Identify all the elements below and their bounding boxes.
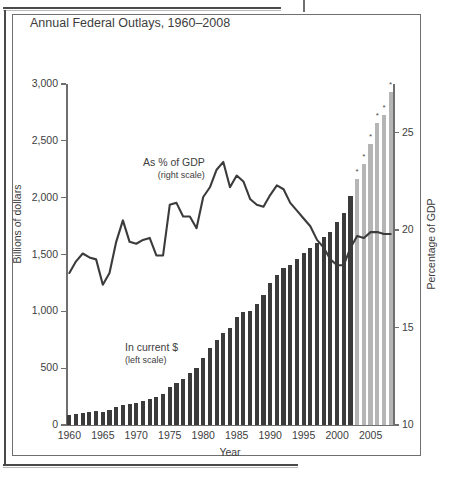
- left-axis-title: Billions of dollars: [11, 169, 23, 279]
- annotation-bars-sub: (left scale): [125, 354, 178, 367]
- figure-rule-bottom-hairline: [3, 467, 298, 468]
- x-axis-tick-label: 1960: [58, 429, 81, 441]
- right-axis-tick: [394, 327, 399, 328]
- annotation-bars-main: In current $: [125, 341, 178, 353]
- right-axis-title: Percentage of GDP: [425, 189, 437, 299]
- x-axis-tick-label: 1980: [192, 429, 215, 441]
- left-axis-tick-label: 0: [18, 418, 58, 430]
- right-axis-tick: [394, 229, 399, 230]
- page-left-rule: [4, 10, 6, 466]
- chart-title: Annual Federal Outlays, 1960–2008: [30, 16, 230, 30]
- figure-number-label: FIGURE 14.1: [120, 0, 270, 2]
- left-axis-tick-label: 3,000: [18, 77, 58, 89]
- left-axis-tick-label: 1,500: [18, 248, 58, 260]
- right-axis-tick-label: 10: [402, 418, 414, 430]
- left-axis-tick-label: 2,000: [18, 191, 58, 203]
- left-axis-tick-label: 500: [18, 361, 58, 373]
- figure-rule-top: [3, 7, 281, 9]
- x-axis-tick-label: 1975: [158, 429, 181, 441]
- left-axis-tick-label: 1,000: [18, 304, 58, 316]
- x-axis-tick-label: 1970: [125, 429, 148, 441]
- x-axis-tick-label: 1985: [225, 429, 248, 441]
- right-axis-tick: [394, 424, 399, 425]
- figure-page: FIGURE 14.1 Annual Federal Outlays, 1960…: [0, 0, 451, 481]
- annotation-gdp-main: As % of GDP: [143, 156, 205, 168]
- column-divider-rule: [303, 0, 305, 12]
- right-axis-tick-label: 20: [402, 223, 414, 235]
- annotation-bars: In current $ (left scale): [125, 341, 178, 366]
- x-axis-tick-label: 1965: [91, 429, 114, 441]
- x-axis-tick-label: 2000: [325, 429, 348, 441]
- x-axis-tick-label: 2005: [359, 429, 382, 441]
- annotation-gdp-sub: (right scale): [143, 169, 205, 182]
- right-axis-tick-label: 25: [402, 126, 414, 138]
- right-axis-tick-label: 15: [402, 321, 414, 333]
- left-axis-tick-label: 2,500: [18, 134, 58, 146]
- annotation-gdp-line: As % of GDP (right scale): [143, 156, 205, 181]
- gdp-percentage-line: [66, 84, 394, 425]
- figure-rule-top-hairline: [3, 10, 281, 11]
- figure-rule-bottom: [3, 464, 298, 466]
- x-axis-title: Year: [66, 446, 394, 458]
- right-axis-tick: [394, 132, 399, 133]
- x-axis-tick-label: 1995: [292, 429, 315, 441]
- x-axis-tick-label: 1990: [258, 429, 281, 441]
